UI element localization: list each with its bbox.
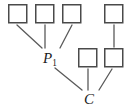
node-label-c: C: [84, 92, 94, 107]
edge-sq-top-1-to-p1: [17, 25, 42, 48]
node-label-p1-subscript: 1: [52, 58, 57, 68]
edge-sq-top-3-to-p1: [60, 25, 72, 48]
diagram-canvas: P1 C: [0, 0, 133, 112]
edge-group: [17, 25, 114, 90]
square-node-top-4: [105, 5, 123, 23]
square-node-mid-2: [105, 49, 123, 67]
node-label-p1-base: P: [43, 50, 52, 66]
square-node-mid-1: [79, 49, 97, 67]
node-label-c-base: C: [84, 91, 94, 107]
square-node-top-3: [63, 5, 81, 23]
diagram-graphics: [0, 0, 133, 112]
square-node-top-2: [36, 5, 54, 23]
node-label-p1: P1: [43, 51, 57, 66]
edge-p1-to-c: [55, 68, 82, 90]
square-node-top-1: [9, 5, 27, 23]
edge-sq-mid-2-to-c: [99, 69, 112, 90]
